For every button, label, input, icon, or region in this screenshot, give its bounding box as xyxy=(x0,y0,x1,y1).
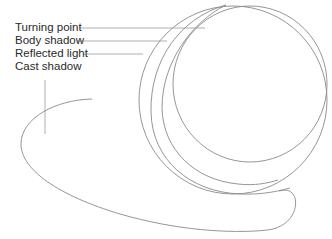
cast-shadow-shape xyxy=(21,99,296,231)
cast-shadow-label: Cast shadow xyxy=(15,60,81,73)
turning-point-label: Turning point xyxy=(15,21,82,34)
body-shadow-label: Body shadow xyxy=(15,34,84,47)
sphere-outline xyxy=(139,6,327,194)
reflected-light-label: Reflected light xyxy=(15,47,88,60)
reflected-light-arc xyxy=(151,5,290,194)
body-shadow-arc xyxy=(162,5,278,185)
lit-area-outline xyxy=(173,6,327,162)
